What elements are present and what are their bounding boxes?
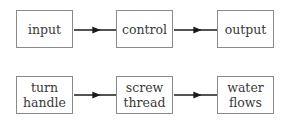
box-water-flows: water flows: [217, 76, 274, 114]
arrowhead-icon: [93, 93, 99, 98]
box-input: input: [16, 10, 73, 48]
arrowhead-icon: [194, 93, 200, 98]
box-output: output: [217, 10, 274, 48]
box-label-line1: turn: [31, 80, 58, 95]
box-label-line2: flows: [229, 95, 262, 110]
box-label: input: [28, 22, 61, 37]
box-turn-handle: turn handle: [16, 76, 73, 114]
box-label: control: [122, 22, 167, 37]
box-label-line2: handle: [23, 95, 66, 110]
box-screw-thread: screw thread: [116, 76, 173, 114]
box-label-line1: screw: [126, 80, 164, 95]
arrowhead-icon: [194, 28, 200, 33]
box-label-line2: thread: [124, 95, 166, 110]
arrowhead-icon: [93, 28, 99, 33]
box-label-line1: water: [227, 80, 264, 95]
box-label: output: [225, 22, 267, 37]
box-control: control: [116, 10, 173, 48]
